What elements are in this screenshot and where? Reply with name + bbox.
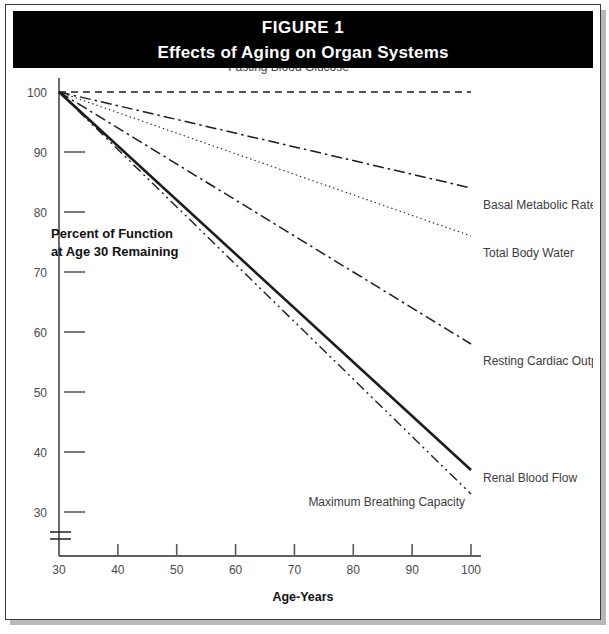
y-tick-label: 30 <box>34 506 48 520</box>
series-line <box>59 92 471 188</box>
y-tick-label: 80 <box>34 206 48 220</box>
x-tick-label: 30 <box>52 563 66 577</box>
figure-shadow-bottom <box>10 620 606 625</box>
figure-title: Effects of Aging on Organ Systems <box>13 40 593 65</box>
axis-lines <box>50 78 481 556</box>
series-label: Total Body Water <box>483 246 574 260</box>
x-tick-label: 40 <box>111 563 125 577</box>
y-axis-title-line2: at Age 30 Remaining <box>51 244 178 259</box>
series-label: Basal Metabolic Rate <box>483 198 593 212</box>
y-tick-label: 40 <box>34 446 48 460</box>
figure-header: FIGURE 1 Effects of Aging on Organ Syste… <box>13 11 593 68</box>
x-tick-label: 90 <box>405 563 419 577</box>
y-tick-label: 90 <box>34 146 48 160</box>
series-label: Resting Cardiac Output <box>483 354 593 368</box>
x-axis-ticks: 30405060708090100 <box>52 544 481 577</box>
y-tick-label: 60 <box>34 326 48 340</box>
x-tick-label: 50 <box>170 563 184 577</box>
chart-plot-area: 30405060708090100 30405060708090100 Fast… <box>13 68 593 616</box>
x-axis-title: Age-Years <box>272 590 333 604</box>
x-tick-label: 100 <box>461 563 481 577</box>
series-line <box>59 92 471 344</box>
x-tick-label: 60 <box>229 563 243 577</box>
series-label: Maximum Breathing Capacity <box>308 495 465 509</box>
line-chart-svg: 30405060708090100 30405060708090100 Fast… <box>13 68 593 616</box>
figure-root: FIGURE 1 Effects of Aging on Organ Syste… <box>0 0 609 634</box>
series-label: Renal Blood Flow <box>483 471 577 485</box>
series-line <box>59 92 471 470</box>
y-tick-label: 70 <box>34 266 48 280</box>
series-line <box>59 92 471 494</box>
y-tick-label: 100 <box>27 86 47 100</box>
series-line <box>59 92 471 236</box>
figure-number: FIGURE 1 <box>13 16 593 40</box>
x-tick-label: 80 <box>347 563 361 577</box>
series-labels-group: Fasting Blood GlucoseBasal Metabolic Rat… <box>228 68 593 509</box>
x-tick-label: 70 <box>288 563 302 577</box>
figure-shadow-right <box>601 10 606 624</box>
y-axis-title-line1: Percent of Function <box>51 226 173 241</box>
series-label: Fasting Blood Glucose <box>228 68 349 74</box>
y-tick-label: 50 <box>34 386 48 400</box>
data-series-group <box>59 92 471 494</box>
y-axis-ticks: 30405060708090100 <box>27 86 85 520</box>
